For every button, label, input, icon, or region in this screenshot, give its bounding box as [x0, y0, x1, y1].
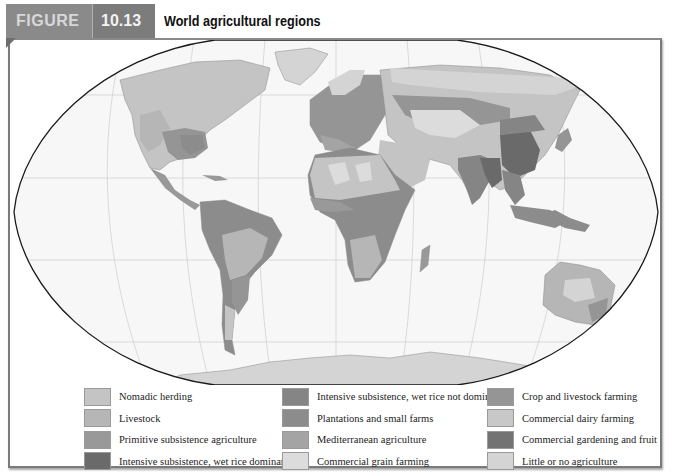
- legend-swatch: [84, 431, 111, 449]
- legend-label: Plantations and small farms: [317, 413, 433, 424]
- legend-item-wet-rice-not-dominant: Intensive subsistence, wet rice not domi…: [282, 386, 503, 408]
- legend-swatch: [282, 431, 309, 449]
- legend-label: Commercial grain farming: [317, 456, 429, 467]
- legend-item-little-no-agriculture: Little or no agriculture: [487, 451, 657, 473]
- legend-label: Little or no agriculture: [522, 456, 617, 467]
- legend-label: Livestock: [119, 413, 160, 424]
- legend-column-2: Intensive subsistence, wet rice not domi…: [282, 386, 503, 472]
- legend-item-wet-rice-dominant: Intensive subsistence, wet rice dominant: [84, 451, 289, 473]
- legend-swatch: [282, 388, 309, 406]
- legend-item-mediterranean: Mediterranean agriculture: [282, 429, 503, 451]
- world-map: [10, 40, 662, 385]
- legend-label: Nomadic herding: [119, 391, 192, 402]
- legend-label: Commercial dairy farming: [522, 413, 634, 424]
- legend-item-plantations: Plantations and small farms: [282, 408, 503, 430]
- new-zealand: [618, 302, 642, 336]
- legend-label: Intensive subsistence, wet rice not domi…: [317, 391, 503, 402]
- legend-column-3: Crop and livestock farming Commercial da…: [487, 386, 657, 472]
- figure-title: World agricultural regions: [155, 4, 321, 38]
- legend-swatch: [84, 452, 111, 470]
- legend-swatch: [282, 452, 309, 470]
- legend-item-nomadic-herding: Nomadic herding: [84, 386, 289, 408]
- legend-item-primitive-subsistence: Primitive subsistence agriculture: [84, 429, 289, 451]
- figure-label: FIGURE: [6, 4, 92, 38]
- map-legend: Nomadic herding Livestock Primitive subs…: [84, 386, 664, 458]
- legend-item-commercial-grain: Commercial grain farming: [282, 451, 503, 473]
- legend-label: Primitive subsistence agriculture: [119, 434, 257, 445]
- legend-item-gardening-fruit: Commercial gardening and fruit: [487, 429, 657, 451]
- legend-item-crop-livestock: Crop and livestock farming: [487, 386, 657, 408]
- legend-swatch: [487, 452, 514, 470]
- legend-label: Crop and livestock farming: [522, 391, 637, 402]
- legend-label: Intensive subsistence, wet rice dominant: [119, 456, 289, 467]
- legend-swatch: [282, 409, 309, 427]
- figure-number: 10.13: [92, 4, 155, 38]
- legend-swatch: [487, 388, 514, 406]
- legend-item-dairy: Commercial dairy farming: [487, 408, 657, 430]
- legend-label: Commercial gardening and fruit: [522, 434, 657, 445]
- legend-column-1: Nomadic herding Livestock Primitive subs…: [84, 386, 289, 472]
- legend-label: Mediterranean agriculture: [317, 434, 426, 445]
- legend-swatch: [487, 431, 514, 449]
- legend-item-livestock: Livestock: [84, 408, 289, 430]
- legend-swatch: [84, 388, 111, 406]
- legend-swatch: [84, 409, 111, 427]
- figure-header: FIGURE 10.13 World agricultural regions: [6, 4, 339, 38]
- legend-swatch: [487, 409, 514, 427]
